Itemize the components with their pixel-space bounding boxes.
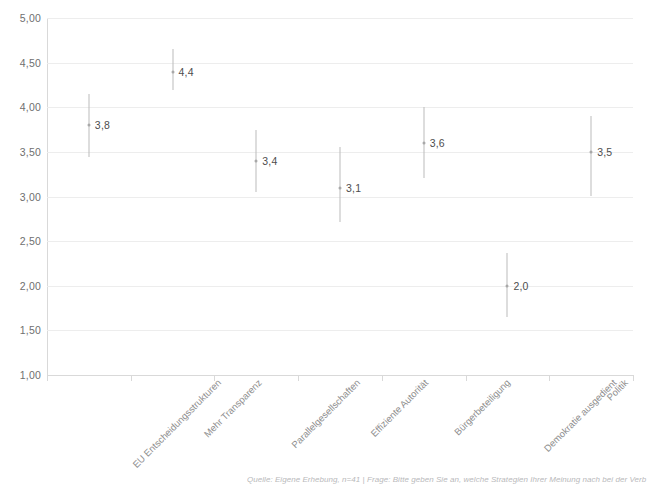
gridline [47,286,633,287]
y-axis-tick-label: 3,50 [20,146,41,158]
error-bar [340,147,341,222]
y-axis-tick-label: 5,00 [20,12,41,24]
source-footnote: Quelle: Eigene Erhebung, n=41 | Frage: B… [247,475,647,484]
x-axis-category-label: Parallelgesellschaften [289,377,362,450]
data-value-label: 4,4 [179,66,194,78]
error-bar [591,116,592,195]
gridline [47,63,633,64]
gridline [47,107,633,108]
gridline [47,375,633,376]
mean-marker [171,70,174,73]
y-axis-tick-label: 2,00 [20,280,41,292]
data-value-label: 2,0 [513,280,528,292]
data-value-label: 3,6 [430,137,445,149]
mean-marker [590,150,593,153]
mean-marker [255,159,258,162]
y-axis-tick-label: 1,50 [20,324,41,336]
y-axis-tick-label: 2,50 [20,235,41,247]
y-axis-tick-label: 1,00 [20,369,41,381]
y-axis-tick-label: 4,50 [20,57,41,69]
x-axis-tick-mark [633,375,634,381]
gridline [47,330,633,331]
y-axis-tick-label: 4,00 [20,101,41,113]
mean-marker [422,141,425,144]
data-value-label: 3,5 [597,146,612,158]
mean-marker [87,124,90,127]
mean-marker [506,284,509,287]
x-axis-category-label: Bürgerbeteiligung [452,377,512,437]
mean-marker [339,186,342,189]
x-axis-category-labels: EU EntscheidungsstrukturenMehr Transpare… [47,377,633,469]
data-value-label: 3,8 [95,119,110,131]
data-value-label: 3,4 [262,155,277,167]
gridline [47,18,633,19]
plot-area: 1,001,502,002,503,003,504,004,505,00 3,8… [47,18,633,375]
data-value-label: 3,1 [346,182,361,194]
gridline [47,241,633,242]
clipped-chart-title [0,0,633,2]
x-axis-category-label: Demokratie ausgedient [542,377,619,454]
x-axis-category-label: Effiziente Autorität [368,377,430,439]
y-axis-tick-label: 3,00 [20,191,41,203]
